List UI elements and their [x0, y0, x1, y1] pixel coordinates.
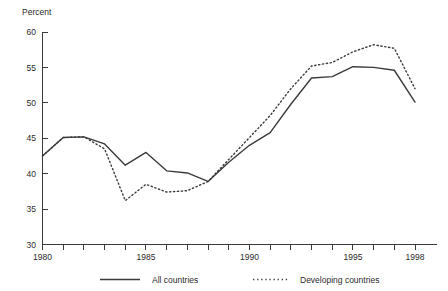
y-axis-tick-marks	[43, 32, 48, 245]
legend-label-developing-countries: Developing countries	[300, 275, 379, 285]
x-tick-label: 1980	[33, 252, 52, 262]
series-line-developing-countries	[43, 45, 416, 201]
chart-figure: Percent 30354045505560 19801985199019951…	[0, 0, 448, 291]
y-axis-title-group: Percent	[22, 7, 52, 17]
line-chart: Percent 30354045505560 19801985199019951…	[0, 0, 448, 291]
y-tick-label: 35	[27, 204, 37, 214]
x-tick-label: 1998	[406, 252, 425, 262]
legend-label-all-countries: All countries	[152, 275, 198, 285]
x-tick-label: 1985	[137, 252, 156, 262]
x-tick-label: 1995	[343, 252, 362, 262]
series-line-all-countries	[43, 67, 416, 182]
x-tick-label: 1990	[240, 252, 259, 262]
y-axis-title: Percent	[22, 7, 52, 17]
x-axis-tick-marks	[43, 245, 416, 250]
x-axis-tick-labels: 19801985199019951998	[33, 252, 425, 262]
y-tick-label: 60	[27, 27, 37, 37]
y-tick-label: 45	[27, 133, 37, 143]
y-tick-label: 30	[27, 240, 37, 250]
y-tick-label: 50	[27, 98, 37, 108]
y-tick-label: 40	[27, 169, 37, 179]
y-tick-label: 55	[27, 63, 37, 73]
y-axis-tick-labels: 30354045505560	[27, 27, 37, 250]
legend: All countries Developing countries	[100, 275, 379, 285]
